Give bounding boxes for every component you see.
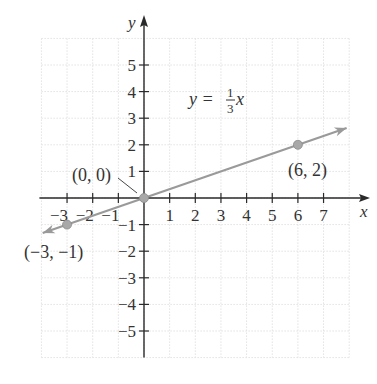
y-tick-label: 1 — [128, 162, 137, 181]
point-label-origin: (0, 0) — [72, 165, 111, 186]
data-point — [140, 194, 149, 203]
x-tick-label: 6 — [294, 206, 303, 225]
data-point — [293, 140, 302, 149]
equation-numerator: 1 — [227, 85, 234, 100]
x-tick-label: 5 — [268, 206, 277, 225]
equation-lhs: y = — [187, 89, 214, 109]
y-tick-label: −5 — [118, 322, 136, 341]
y-axis-label: y — [126, 13, 136, 32]
x-tick-label: 4 — [242, 206, 251, 225]
y-tick-label: −3 — [118, 269, 136, 288]
y-tick-label: −4 — [118, 295, 137, 314]
axes — [39, 15, 370, 358]
coordinate-plane: −3−2−1123456754321−1−2−3−4−5 x y y = 1 3… — [0, 0, 377, 384]
y-tick-label: −1 — [118, 216, 136, 235]
equation-denominator: 3 — [227, 101, 234, 116]
x-tick-label: 3 — [217, 206, 226, 225]
x-axis-label: x — [359, 202, 368, 221]
data-point — [63, 220, 72, 229]
y-tick-label: 5 — [128, 56, 137, 75]
point-label-neg3-neg1: (−3, −1) — [24, 242, 83, 263]
y-tick-label: 3 — [128, 109, 137, 128]
point-label-6-2: (6, 2) — [288, 160, 327, 181]
equation-variable: x — [235, 89, 244, 109]
y-tick-label: 2 — [128, 136, 137, 155]
y-tick-label: 4 — [128, 83, 137, 102]
y-tick-label: −2 — [118, 242, 136, 261]
x-tick-label: 7 — [319, 206, 328, 225]
x-tick-label: 2 — [191, 206, 200, 225]
x-tick-label: 1 — [165, 206, 174, 225]
